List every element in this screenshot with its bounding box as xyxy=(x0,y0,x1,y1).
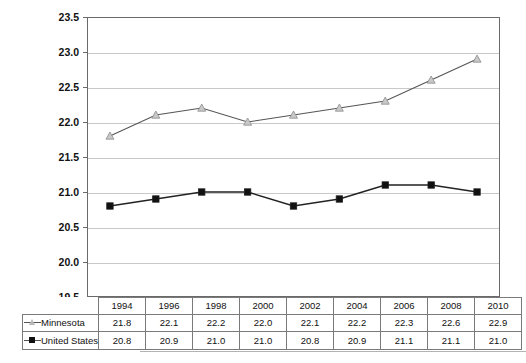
data-point-triangle xyxy=(473,55,481,62)
table-row: Minnesota21.822.122.222.022.122.222.322.… xyxy=(23,315,522,332)
table-cell-value: 21.0 xyxy=(240,332,287,349)
data-point-square xyxy=(153,196,159,202)
table-column-header: 2002 xyxy=(287,298,334,315)
data-table: 199419961998200020022004200620082010Minn… xyxy=(22,297,522,350)
table-corner-cell xyxy=(23,298,99,315)
y-axis-tick-label: 22.0 xyxy=(33,116,79,128)
y-axis-tick-label: 20.5 xyxy=(33,221,79,233)
table-cell-value: 22.2 xyxy=(334,315,381,332)
table-cell-value: 21.1 xyxy=(428,332,475,349)
chart-canvas: 19.520.020.521.021.522.022.523.023.5 199… xyxy=(0,0,526,363)
table-cell-value: 22.2 xyxy=(193,315,240,332)
table-column-header: 2010 xyxy=(475,298,522,315)
table-cell-value: 21.0 xyxy=(193,332,240,349)
data-point-square xyxy=(428,182,434,188)
series-line xyxy=(110,59,477,136)
table-column-header: 2000 xyxy=(240,298,287,315)
table-column-header: 2006 xyxy=(381,298,428,315)
table-header-row: 199419961998200020022004200620082010 xyxy=(23,298,522,315)
table-column-header: 1994 xyxy=(99,298,146,315)
series-united-states xyxy=(107,182,481,209)
table-cell-value: 22.3 xyxy=(381,315,428,332)
data-point-square xyxy=(382,182,388,188)
legend-entry-minnesota: Minnesota xyxy=(23,315,99,332)
table-column-header: 1996 xyxy=(146,298,193,315)
data-point-square xyxy=(107,203,113,209)
square-filled-icon xyxy=(24,336,41,346)
table-cell-value: 21.1 xyxy=(381,332,428,349)
legend-label: Minnesota xyxy=(41,315,85,331)
y-axis-tick-label: 20.0 xyxy=(33,256,79,268)
table-cell-value: 20.9 xyxy=(334,332,381,349)
data-point-triangle xyxy=(198,104,206,111)
table-column-header: 2008 xyxy=(428,298,475,315)
legend-label: United States xyxy=(41,333,98,349)
table-column-header: 2004 xyxy=(334,298,381,315)
table-cell-value: 20.8 xyxy=(99,332,146,349)
table-cell-value: 20.9 xyxy=(146,332,193,349)
table-cell-value: 21.0 xyxy=(475,332,522,349)
data-point-square xyxy=(336,196,342,202)
table-cell-value: 20.8 xyxy=(287,332,334,349)
y-axis-tick-label: 22.5 xyxy=(33,81,79,93)
y-axis-tick-label: 21.5 xyxy=(33,151,79,163)
scan-artifact-line xyxy=(140,351,526,352)
table-cell-value: 22.0 xyxy=(240,315,287,332)
table-cell-value: 21.8 xyxy=(99,315,146,332)
data-point-square xyxy=(290,203,296,209)
table-cell-value: 22.9 xyxy=(475,315,522,332)
y-axis-tick-label: 23.0 xyxy=(33,46,79,58)
data-point-triangle xyxy=(106,132,114,139)
triangle-open-icon xyxy=(24,318,41,328)
table-cell-value: 22.6 xyxy=(428,315,475,332)
series-minnesota xyxy=(106,55,481,139)
legend-entry-united-states: United States xyxy=(23,332,99,349)
data-point-triangle xyxy=(381,97,389,104)
data-point-square xyxy=(474,189,480,195)
data-point-triangle xyxy=(427,76,435,83)
y-axis-tick-label: 21.0 xyxy=(33,186,79,198)
table-row: United States20.820.921.021.020.820.921.… xyxy=(23,332,522,349)
data-point-square xyxy=(244,189,250,195)
data-point-square xyxy=(199,189,205,195)
table-cell-value: 22.1 xyxy=(287,315,334,332)
table-cell-value: 22.1 xyxy=(146,315,193,332)
y-axis-tick-label: 23.5 xyxy=(33,11,79,23)
series-layer xyxy=(87,17,500,297)
table-column-header: 1998 xyxy=(193,298,240,315)
